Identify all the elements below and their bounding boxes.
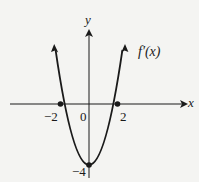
chart-canvas: [0, 0, 199, 182]
curve-arrow-left-icon: [51, 44, 58, 53]
x-axis-label: x: [188, 96, 194, 109]
point-vertex: [86, 162, 92, 168]
tick-label-2: 2: [120, 110, 127, 123]
tick-label-neg2: −2: [44, 110, 58, 123]
curve-arrow-right-icon: [121, 44, 128, 53]
tick-label-neg4: −4: [72, 165, 86, 178]
curve-label: f′(x): [138, 45, 161, 59]
point-zero-neg2: [58, 101, 64, 107]
y-axis-label: y: [85, 13, 91, 26]
point-zero-2: [115, 101, 121, 107]
tick-label-0: 0: [80, 110, 87, 123]
